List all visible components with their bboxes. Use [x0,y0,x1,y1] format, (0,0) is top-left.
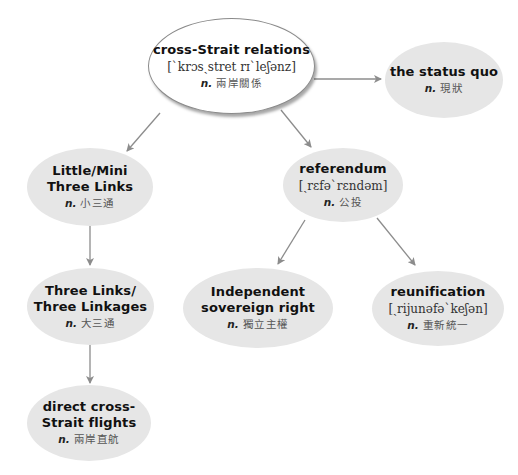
part-of-speech: n. [66,317,77,329]
node-term: Little/Mini Three Links [47,163,133,195]
chinese-translation: 公投 [339,196,362,208]
node-phonetic: [ˏrɛfəˋrɛndəm] [299,178,388,194]
part-of-speech: n. [201,77,212,89]
node-phonetic: [ˋkrɔsˏstret rɪˋleʃənz] [167,59,296,75]
node-gloss: n.小三通 [65,196,115,211]
node-gloss: n.大三通 [66,316,116,331]
node-term: cross-Strait relations [153,42,310,58]
node-term: referendum [299,161,386,177]
chinese-translation: 現狀 [440,82,463,94]
node-three-links: Three Links/ Three Linkages n.大三通 [27,268,154,345]
node-term: the status quo [390,64,498,80]
node-term: reunification [391,284,486,300]
node-gloss: n.兩岸關係 [201,76,262,91]
edge-referendum-to-reunification [377,218,415,265]
concept-map: cross-Strait relations [ˋkrɔsˏstret rɪˋl… [0,0,518,475]
node-mini-three-links: Little/Mini Three Links n.小三通 [27,148,153,226]
part-of-speech: n. [65,197,76,209]
edge-root-to-referendum [281,110,311,147]
part-of-speech: n. [425,82,436,94]
part-of-speech: n. [58,433,69,445]
node-phonetic: [ˏrijunəfəˋkeʃən] [388,301,487,317]
part-of-speech: n. [407,319,418,331]
chinese-translation: 兩岸直航 [74,433,120,445]
node-reunification: reunification [ˏrijunəfəˋkeʃən] n.重新統一 [372,271,504,346]
chinese-translation: 大三通 [81,317,116,329]
node-gloss: n.重新統一 [407,318,468,333]
node-cross-strait-relations: cross-Strait relations [ˋkrɔsˏstret rɪˋl… [148,18,315,114]
node-referendum: referendum [ˏrɛfəˋrɛndəm] n.公投 [283,148,403,222]
node-gloss: n.獨立主權 [227,317,288,332]
node-gloss: n.公投 [324,195,362,210]
node-direct-flights: direct cross- Strait flights n.兩岸直航 [27,385,151,461]
chinese-translation: 獨立主權 [243,318,289,330]
node-term: Independent sovereign right [201,284,315,316]
chinese-translation: 兩岸關係 [216,77,262,89]
node-gloss: n.兩岸直航 [58,432,119,447]
part-of-speech: n. [324,196,335,208]
node-status-quo: the status quo n.現狀 [385,42,503,118]
edge-root-to-mini-three-links [127,113,160,151]
node-term: direct cross- Strait flights [42,399,136,431]
chinese-translation: 小三通 [80,197,115,209]
node-independent-sovereign-right: Independent sovereign right n.獨立主權 [183,268,333,348]
part-of-speech: n. [227,318,238,330]
chinese-translation: 重新統一 [423,319,469,331]
node-term: Three Links/ Three Linkages [34,283,147,315]
node-gloss: n.現狀 [425,81,463,96]
edge-referendum-to-independent [278,220,305,264]
